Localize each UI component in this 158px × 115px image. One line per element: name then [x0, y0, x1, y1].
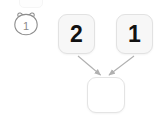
edge-parent-right-to-child	[109, 56, 134, 75]
diagram-canvas: 1 2 1	[0, 0, 158, 115]
node-parent-right[interactable]: 1	[116, 14, 153, 54]
node-child[interactable]	[87, 77, 125, 113]
edge-parent-left-to-child	[78, 56, 101, 75]
node-parent-left[interactable]: 2	[58, 14, 95, 54]
bear-head-icon: 1	[11, 9, 41, 39]
clipped-node-icon	[19, 0, 43, 8]
node-parent-left-label: 2	[70, 23, 83, 46]
node-parent-right-label: 1	[128, 23, 141, 46]
bear-badge-label: 1	[11, 9, 41, 41]
